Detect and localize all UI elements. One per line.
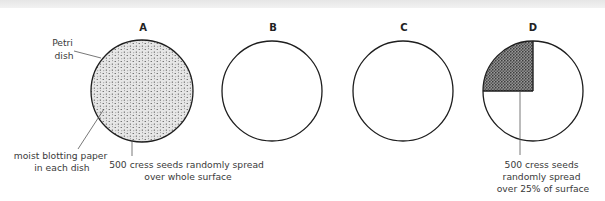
leader-blotting-paper <box>78 109 104 149</box>
dish-letter-a: A <box>139 22 147 33</box>
leader-petri-dish <box>74 51 101 58</box>
dish-letter-d: D <box>529 22 537 33</box>
label-petri-dish: Petri dish <box>52 37 76 61</box>
dish-b <box>222 41 322 141</box>
dish-letter-c: C <box>400 22 407 33</box>
label-seeds-quarter-surface: 500 cress seeds randomly spread over 25%… <box>497 159 590 194</box>
dish-a <box>91 40 193 142</box>
label-seeds-whole-surface: 500 cress seeds randomly spread over who… <box>109 159 267 182</box>
petri-dish-diagram: A B C D Petri dish moist blotting paper … <box>0 0 605 201</box>
dish-c <box>353 41 453 141</box>
dish-d <box>483 41 583 141</box>
label-blotting-paper: moist blotting paper in each dish <box>14 150 110 173</box>
dish-letter-b: B <box>269 22 277 33</box>
dish-d-seeded-quadrant <box>483 41 533 91</box>
